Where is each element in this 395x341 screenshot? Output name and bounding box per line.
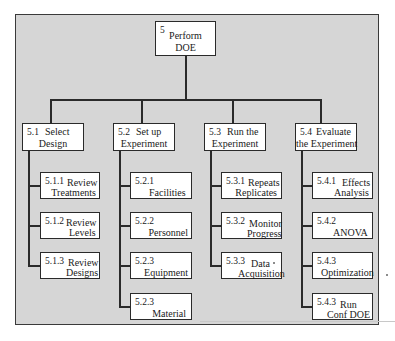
node-5-4-3-run-conf-doe: 5.4.3 Run Conf DOE [312, 293, 373, 320]
branch-bar [50, 99, 321, 101]
node-label-line2: Experiment [205, 138, 265, 150]
node-label-line2: the Experiment [296, 138, 356, 150]
node-5-1-3-review-designs: 5.1.3 Review Designs [40, 252, 100, 279]
node-number: 5.3.2 [226, 216, 245, 226]
node-label: Facilities [149, 187, 186, 199]
node-label-line2: Acquisition [238, 268, 285, 280]
node-5-4-evaluate-the-experiment: 5.4 Evaluate the Experiment [295, 123, 357, 151]
node-5-3-2-monitor-progress: 5.3.2 Monitor Progress [221, 212, 282, 239]
node-5-3-3-data-acquisition: 5.3.3 Data Acquisition [221, 252, 282, 279]
spine-5-3 [210, 150, 212, 266]
node-label-line2: Designs [66, 267, 98, 279]
node-label-line2: Replicates [235, 187, 277, 199]
node-number: 5.4.1 [317, 176, 336, 186]
node-5-2-1-facilities: 5.2.1 Facilities [130, 172, 192, 199]
node-number: 5.2.3 [135, 256, 154, 266]
node-5-2-3-material: 5.2.3 Material [130, 293, 192, 320]
node-5-2-set-up-experiment: 5.2 Set up Experiment [113, 123, 175, 151]
node-label: Equipment [144, 267, 188, 279]
node-label: Optimization [321, 267, 374, 279]
scan-speck [386, 274, 388, 276]
node-5-4-3-optimization: 5.4.3 Optimization [312, 252, 373, 279]
node-number: 5.3.1 [226, 176, 245, 186]
node-number: 5.1.1 [45, 176, 64, 186]
node-5-3-run-the-experiment: 5.3 Run the Experiment [204, 123, 266, 151]
node-5-2-2-personnel: 5.2.2 Personnel [130, 212, 192, 239]
node-label-line2: Conf DOE [327, 309, 370, 321]
node-label-line1: Run the [227, 126, 258, 138]
node-number: 5.1.3 [45, 256, 64, 266]
node-label-line1: Set up [136, 126, 161, 138]
tick [28, 225, 40, 227]
node-5-1-2-review-levels: 5.1.2 Review Levels [40, 212, 100, 239]
branch-connector-5-3 [232, 99, 234, 123]
node-label-line2: Analysis [334, 187, 369, 199]
scan-rule [200, 321, 395, 322]
node-number: 5.2 [118, 127, 130, 137]
node-5-3-1-repeats-replicates: 5.3.1 Repeats Replicates [221, 172, 282, 199]
node-number: 5.4.3 [317, 256, 336, 266]
spine-5-1 [28, 150, 30, 266]
node-label-line1: Perform [156, 30, 215, 42]
node-5-1-1-review-treatments: 5.1.1 Review Treatments [40, 172, 100, 199]
node-label-line1: Evaluate [316, 126, 351, 138]
tick [28, 185, 40, 187]
node-number: 5.4.2 [317, 216, 336, 226]
node-label-line2: Progress [247, 228, 281, 240]
node-label: Material [152, 308, 186, 320]
spine-5-4 [301, 150, 303, 307]
spine-5-2 [119, 150, 121, 307]
branch-connector-5-2 [141, 99, 143, 123]
node-label: Personnel [149, 227, 188, 239]
node-label-line2: Experiment [114, 138, 174, 150]
branch-connector-5-4 [320, 99, 322, 123]
node-label: ANOVA [333, 227, 368, 239]
node-label-line2: Levels [69, 227, 96, 239]
root-connector [185, 55, 187, 100]
node-label-line2: Design [23, 138, 83, 150]
node-5-4-1-effects-analysis: 5.4.1 Effects Analysis [312, 172, 373, 199]
branch-connector-5-1 [50, 99, 52, 123]
node-number: 5.2.3 [135, 297, 154, 307]
node-number: 5.1 [27, 127, 39, 137]
node-root-perform-doe: 5 Perform DOE [155, 21, 216, 56]
node-5-1-select-design: 5.1 Select Design [22, 123, 84, 151]
node-number: 5.2.1 [135, 176, 154, 186]
node-number: 5.3.3 [226, 256, 245, 266]
node-number: 5.2.2 [135, 216, 154, 226]
scan-speck [273, 262, 275, 264]
node-number: 5.4.3 [317, 297, 336, 307]
node-label-line1: Select [45, 126, 69, 138]
node-number: 5.4 [300, 127, 312, 137]
node-label-line2: Treatments [51, 187, 96, 199]
node-label-line2: DOE [156, 42, 215, 54]
node-5-4-2-anova: 5.4.2 ANOVA [312, 212, 373, 239]
node-5-2-3-equipment: 5.2.3 Equipment [130, 252, 192, 279]
tick [28, 265, 40, 267]
node-number: 5.3 [209, 127, 221, 137]
node-number: 5.1.2 [45, 216, 64, 226]
